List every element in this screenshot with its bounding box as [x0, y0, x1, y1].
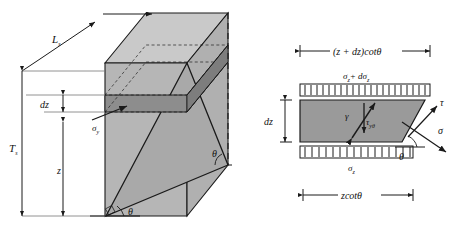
- bottom-dimension-label: zcotθ: [340, 190, 362, 201]
- theta-right-label: θ: [212, 148, 217, 159]
- top-dimension-label: (z + dz)cotθ: [333, 46, 381, 58]
- shear-strain-label: γ: [345, 111, 349, 121]
- theta-element-label: θ: [399, 151, 404, 162]
- depth-label: z: [56, 165, 61, 176]
- dz-label: dz: [40, 99, 49, 110]
- diagram-svg: Ls Ts dz z σy θ θ: [0, 0, 464, 229]
- figure-container: Ls Ts dz z σy θ θ: [0, 0, 464, 229]
- element-dz-label: dz: [264, 116, 273, 127]
- top-stress-label: σz+ dσz: [343, 71, 370, 83]
- theta-left-label: θ: [128, 206, 133, 217]
- tau-label: τ: [440, 97, 444, 108]
- top-load-arrows: [305, 85, 425, 95]
